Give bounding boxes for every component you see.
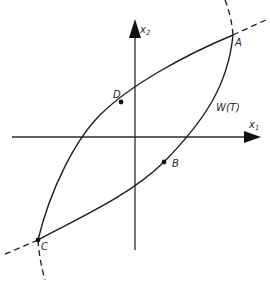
dashed-arc-top xyxy=(225,0,233,35)
region-label-w-t: W(T) xyxy=(216,102,240,113)
point-c xyxy=(36,238,41,243)
phase-diagram: x2 x1 A B C D W(T) xyxy=(0,0,270,282)
x2-axis-label: x2 xyxy=(139,24,151,37)
x1-arrow-icon xyxy=(244,131,261,143)
point-c-label: C xyxy=(41,241,48,252)
point-d xyxy=(119,100,124,105)
point-b xyxy=(162,160,167,165)
x1-axis-label: x1 xyxy=(248,119,259,132)
dashed-extension-upper-right xyxy=(233,19,268,35)
point-a-label: A xyxy=(234,37,242,48)
x2-axis xyxy=(129,19,141,250)
point-b-label: B xyxy=(172,158,179,169)
point-d-label: D xyxy=(113,89,121,100)
dashed-extension-lower-left xyxy=(3,240,38,255)
x1-axis xyxy=(12,131,261,143)
